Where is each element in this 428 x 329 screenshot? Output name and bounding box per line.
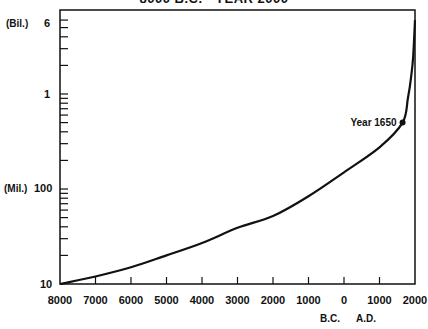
x-tick-label: 0 bbox=[341, 294, 347, 306]
y-unit-millions: (Mil.) bbox=[4, 183, 27, 194]
y-axis-ticks bbox=[60, 20, 68, 255]
x-tick-label: 1000 bbox=[296, 294, 320, 306]
x-tick-label: 1000 bbox=[367, 294, 391, 306]
x-tick-label: 2000 bbox=[403, 294, 427, 306]
y-tick-label-10: 10 bbox=[40, 278, 52, 290]
year-1650-annotation: Year 1650 bbox=[350, 117, 397, 128]
x-tick-label: 2000 bbox=[261, 294, 285, 306]
year-1650-marker bbox=[400, 120, 406, 126]
x-tick-label: 5000 bbox=[154, 294, 178, 306]
x-axis-ticks bbox=[96, 277, 380, 284]
x-tick-labels: 8000700060005000400030002000100001000200… bbox=[48, 294, 427, 306]
x-tick-label: 8000 bbox=[48, 294, 72, 306]
y-unit-billions: (Bil.) bbox=[6, 18, 28, 29]
era-label-ad: A.D. bbox=[356, 313, 376, 324]
y-tick-label-1: 1 bbox=[44, 88, 50, 100]
y-tick-label-100: 100 bbox=[34, 182, 52, 194]
x-tick-label: 6000 bbox=[119, 294, 143, 306]
population-curve bbox=[60, 20, 415, 284]
x-tick-label: 3000 bbox=[225, 294, 249, 306]
population-chart: (Bil.) 6 1 (Mil.) 100 10 800070006000500… bbox=[0, 0, 428, 329]
x-tick-label: 7000 bbox=[83, 294, 107, 306]
x-tick-label: 4000 bbox=[190, 294, 214, 306]
plot-frame bbox=[60, 10, 415, 284]
era-label-bc: B.C. bbox=[320, 313, 340, 324]
y-tick-label-6: 6 bbox=[44, 17, 50, 29]
